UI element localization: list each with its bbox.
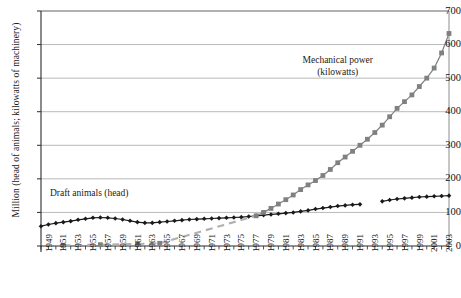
draft-animals-marker xyxy=(410,195,415,200)
x-tick-label-2001: 2001 xyxy=(430,234,439,252)
x-tick-label-1963: 1963 xyxy=(148,234,157,252)
x-tick-label-1971: 1971 xyxy=(208,234,217,252)
draft-animals-marker xyxy=(284,211,289,216)
y-tick-label-700: 700 xyxy=(427,6,461,17)
draft-animals-marker xyxy=(98,215,103,220)
draft-animals-marker xyxy=(143,221,148,226)
draft-animals-marker xyxy=(313,207,318,212)
y-axis-label: Million (head of animals; kilowatts of m… xyxy=(11,0,21,240)
mechanical-power-marker xyxy=(439,51,444,56)
draft-animals-label: Draft animals (head) xyxy=(34,188,144,200)
draft-animals-marker xyxy=(350,202,355,207)
draft-animals-marker xyxy=(217,216,222,221)
draft-animals-marker xyxy=(439,194,444,199)
draft-animals-marker xyxy=(194,217,199,222)
draft-animals-marker xyxy=(298,209,303,214)
mechanical-power-label: Mechanical power (kilowatts) xyxy=(283,55,393,79)
mechanical-power-marker xyxy=(365,137,370,142)
draft-animals-marker xyxy=(269,212,274,217)
x-tick-label-1975: 1975 xyxy=(237,234,246,252)
mechanical-power-marker xyxy=(402,99,407,104)
x-tick-label-1957: 1957 xyxy=(104,234,113,252)
draft-animals-marker xyxy=(321,206,326,211)
y-tick-label-600: 600 xyxy=(427,39,461,50)
mechanical-power-marker xyxy=(306,183,311,188)
draft-animals-marker xyxy=(180,218,185,223)
x-tick-label-1959: 1959 xyxy=(119,234,128,252)
draft-animals-marker xyxy=(380,199,385,204)
mechanical-power-marker xyxy=(447,31,452,36)
mechanical-power-marker xyxy=(387,114,392,119)
x-tick-label-1973: 1973 xyxy=(223,234,232,252)
y-tick-label-400: 400 xyxy=(427,106,461,117)
x-tick-label-1955: 1955 xyxy=(89,234,98,252)
x-tick-label-1961: 1961 xyxy=(134,234,143,252)
x-tick-label-1965: 1965 xyxy=(163,234,172,252)
draft-animals-marker xyxy=(328,205,333,210)
mechanical-power-marker xyxy=(410,93,415,98)
mechanical-power-marker xyxy=(335,160,340,165)
draft-animals-marker xyxy=(120,217,125,222)
draft-animals-marker xyxy=(232,215,237,220)
draft-animals-marker xyxy=(172,219,177,224)
draft-animals-marker xyxy=(150,221,155,226)
mechanical-power-marker xyxy=(432,66,437,71)
x-tick-label-1995: 1995 xyxy=(386,234,395,252)
draft-animals-marker xyxy=(68,219,73,224)
draft-animals-marker xyxy=(447,193,452,198)
x-tick-label-1997: 1997 xyxy=(401,234,410,252)
draft-animals-marker xyxy=(157,220,162,225)
y-tick-label-500: 500 xyxy=(427,73,461,84)
draft-animals-marker xyxy=(61,220,66,225)
x-tick-label-1969: 1969 xyxy=(193,234,202,252)
draft-animals-marker xyxy=(424,194,429,199)
x-tick-label-1977: 1977 xyxy=(252,234,261,252)
draft-animals-marker xyxy=(113,216,118,221)
mechanical-power-marker xyxy=(417,84,422,89)
mechanical-power-marker xyxy=(313,178,318,183)
x-tick-label-1953: 1953 xyxy=(74,234,83,252)
x-tick-label-1991: 1991 xyxy=(356,234,365,252)
x-tick-label-1987: 1987 xyxy=(326,234,335,252)
mechanical-power-marker xyxy=(261,210,266,215)
draft-animals-marker xyxy=(335,204,340,209)
mechanical-power-marker xyxy=(380,123,385,128)
draft-animals-marker xyxy=(395,197,400,202)
y-tick-label-100: 100 xyxy=(427,207,461,218)
draft-animals-marker xyxy=(291,210,296,215)
x-tick-label-1949: 1949 xyxy=(45,234,54,252)
draft-animals-marker xyxy=(135,220,140,225)
draft-animals-marker xyxy=(91,216,96,221)
mechanical-power-marker xyxy=(358,143,363,148)
draft-animals-marker xyxy=(39,224,44,229)
draft-animals-marker xyxy=(54,221,59,226)
mechanical-power-marker xyxy=(276,202,281,207)
mechanical-power-marker xyxy=(298,187,303,192)
x-tick-label-1967: 1967 xyxy=(178,234,187,252)
mechanical-power-marker xyxy=(328,167,333,172)
draft-animals-marker xyxy=(105,216,110,221)
draft-animals-marker xyxy=(209,216,214,221)
draft-animals-marker xyxy=(202,217,207,222)
chart-root: Million (head of animals; kilowatts of m… xyxy=(0,0,461,298)
mechanical-power-marker xyxy=(283,197,288,202)
mechanical-power-marker xyxy=(254,213,259,218)
y-tick-label-300: 300 xyxy=(427,140,461,151)
draft-animals-marker xyxy=(306,208,311,213)
x-tick-label-1951: 1951 xyxy=(59,234,68,252)
x-tick-label-1999: 1999 xyxy=(416,234,425,252)
x-tick-label-1983: 1983 xyxy=(297,234,306,252)
draft-animals-marker xyxy=(46,222,51,227)
x-tick-label-2003: 2003 xyxy=(445,234,454,252)
draft-animals-marker xyxy=(224,216,229,221)
mechanical-power-marker xyxy=(350,149,355,154)
draft-animals-marker xyxy=(402,196,407,201)
x-tick-label-1989: 1989 xyxy=(341,234,350,252)
y-tick-label-200: 200 xyxy=(427,173,461,184)
x-tick-label-1979: 1979 xyxy=(267,234,276,252)
mechanical-power-marker xyxy=(291,193,296,198)
x-tick-label-1981: 1981 xyxy=(282,234,291,252)
x-tick-label-1993: 1993 xyxy=(371,234,380,252)
mechanical-power-marker xyxy=(343,155,348,160)
draft-animals-marker xyxy=(76,218,81,223)
